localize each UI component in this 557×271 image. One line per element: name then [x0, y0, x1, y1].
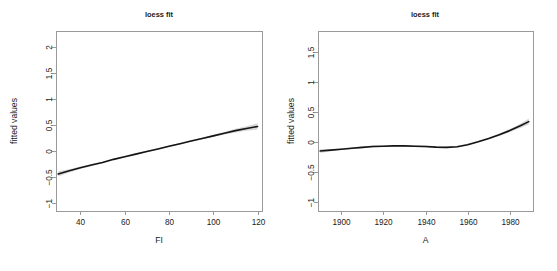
plot-title-right: loess fit [411, 10, 439, 19]
y-tick-label-left: 0 [45, 149, 54, 154]
y-tick-label-right: 1.5 [307, 46, 316, 58]
y-tick-label-left: 1 [45, 97, 54, 102]
y-tick-label-left: −1 [45, 198, 54, 208]
x-axis-label-left: FI [155, 235, 163, 245]
y-tick-label-right: −0.5 [307, 164, 316, 181]
x-tick-label-left: 80 [165, 218, 175, 227]
y-axis-label-right: fitted values [286, 98, 296, 144]
plot-panel-right: loess fit190019201940196019801.510.50−0.… [277, 0, 557, 271]
y-axis-label-left: fitted values [9, 98, 19, 144]
plot-area-right: loess fit190019201940196019801.510.50−0.… [277, 0, 557, 271]
x-tick-label-right: 1940 [417, 218, 436, 227]
x-tick-label-right: 1960 [459, 218, 478, 227]
x-tick-label-left: 120 [252, 218, 266, 227]
x-axis-label-right: A [423, 235, 429, 245]
x-tick-label-left: 100 [207, 218, 221, 227]
figure-canvas: loess fit40608010012021.510.50−0.5−1FIfi… [0, 0, 557, 271]
y-tick-label-right: −1 [307, 197, 316, 207]
plot-panel-left: loess fit40608010012021.510.50−0.5−1FIfi… [0, 0, 277, 271]
plot-area-left: loess fit40608010012021.510.50−0.5−1FIfi… [0, 0, 277, 271]
y-tick-label-left: 1.5 [45, 67, 54, 79]
y-tick-label-right: 0 [307, 140, 316, 145]
x-tick-label-left: 40 [76, 218, 86, 227]
y-tick-label-left: −0.5 [45, 169, 54, 186]
y-tick-label-right: 0.5 [307, 106, 316, 118]
plot-frame-left [57, 32, 263, 212]
x-tick-label-left: 60 [121, 218, 131, 227]
confidence-band-left [58, 123, 257, 176]
y-tick-label-left: 2 [45, 45, 54, 50]
plot-title-left: loess fit [145, 10, 173, 19]
plot-frame-right [319, 32, 534, 212]
y-tick-label-right: 1 [307, 80, 316, 85]
y-tick-label-left: 0.5 [45, 119, 54, 131]
x-tick-label-right: 1980 [501, 218, 520, 227]
x-tick-label-right: 1920 [374, 218, 393, 227]
x-tick-label-right: 1900 [332, 218, 351, 227]
